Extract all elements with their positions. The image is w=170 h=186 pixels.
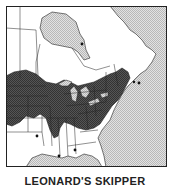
record-dot	[81, 43, 84, 46]
record-dot	[58, 155, 61, 158]
map-frame	[6, 6, 167, 167]
record-dot	[138, 82, 141, 85]
range-map	[6, 6, 167, 167]
record-dot	[74, 149, 77, 152]
map-caption: LEONARD'S SKIPPER	[0, 174, 170, 186]
record-dot	[133, 81, 135, 83]
record-dot	[36, 135, 39, 138]
range-map-figure: LEONARD'S SKIPPER	[0, 0, 170, 186]
